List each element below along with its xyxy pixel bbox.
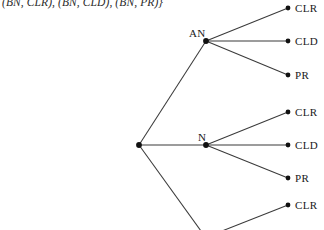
tree-edge-offscreen-to-clr: [222, 205, 288, 230]
leaf-label-3-clr: CLR: [295, 106, 317, 118]
leaf-label-4-cld: CLD: [295, 139, 318, 151]
leaf-label-1-cld: CLD: [295, 35, 318, 47]
tree-leaf-node-5-pr[interactable]: [286, 176, 291, 181]
tree-edge-root-to-an: [139, 41, 206, 145]
diagram-canvas: (BN, CLR), (BN, CLD), (BN, PR)} ANNCLRCL…: [0, 0, 324, 230]
leaf-label-5-pr: PR: [295, 172, 309, 184]
tree-diagram-svg: [0, 0, 324, 230]
tree-node-root[interactable]: [136, 142, 142, 148]
tree-edge-root-to-third-subtree: [139, 145, 201, 230]
tree-edge-n-to-clr: [206, 112, 288, 145]
tree-leaf-node-3-clr[interactable]: [286, 110, 291, 115]
tree-edge-n-to-pr: [206, 145, 288, 178]
leaf-label-0-clr: CLR: [295, 2, 317, 14]
tree-edge-an-to-clr: [206, 8, 288, 41]
node-label-an: AN: [189, 27, 206, 39]
tree-leaf-node-4-cld[interactable]: [286, 143, 291, 148]
tree-leaf-node-6-clr[interactable]: [286, 203, 291, 208]
tree-leaf-node-1-cld[interactable]: [286, 39, 291, 44]
tree-leaf-node-0-clr[interactable]: [286, 6, 291, 11]
tree-edge-an-to-pr: [206, 41, 288, 75]
edges-group: [139, 8, 288, 230]
leaf-label-6-clr: CLR: [295, 199, 317, 211]
node-label-n: N: [198, 131, 206, 143]
nodes-group: [136, 6, 290, 208]
leaf-label-2-pr: PR: [295, 69, 309, 81]
tree-leaf-node-2-pr[interactable]: [286, 73, 291, 78]
